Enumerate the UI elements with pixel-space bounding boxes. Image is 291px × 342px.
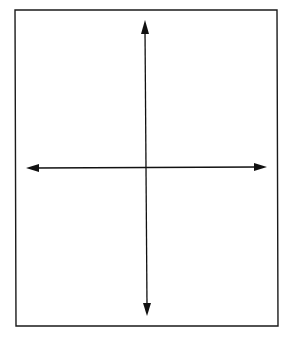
coordinate-plane <box>0 0 291 342</box>
